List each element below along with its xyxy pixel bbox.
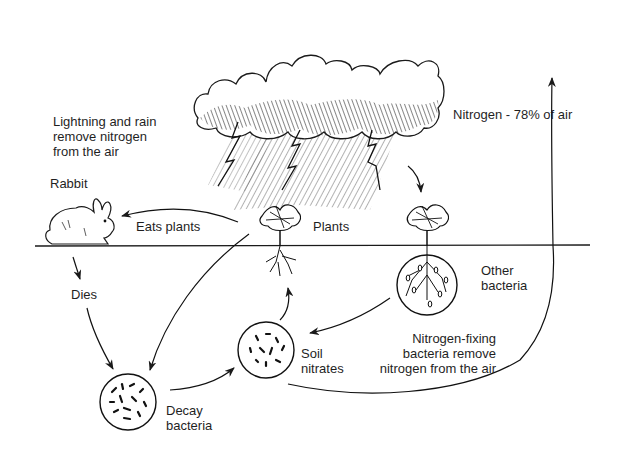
arrow-dies-to-decay — [87, 308, 113, 369]
nitrogen-cycle-diagram — [0, 0, 623, 458]
arrow-soil-to-plants — [280, 288, 289, 320]
lightning-label-line: Lightning and rain — [53, 114, 156, 129]
lightning-label-line: remove nitrogen — [53, 129, 156, 144]
arrow-plants-to-decay — [150, 234, 249, 370]
other-bacteria-label: Other bacteria — [481, 263, 527, 293]
soil-nitrates-label-line: Soil — [301, 346, 344, 361]
nitrogen-fixing-label-line: bacteria remove — [363, 346, 496, 361]
decay-bacteria-label-line: bacteria — [166, 418, 212, 433]
rabbit-icon — [46, 199, 114, 244]
nitrogen-air-label: Nitrogen - 78% of air — [453, 107, 572, 122]
soil-nitrates-label: Soil nitrates — [301, 346, 344, 376]
nitrogen-fixing-label-line: nitrogen from the air — [363, 361, 496, 376]
plant-root-nodules-icon — [397, 205, 457, 315]
nitrogen-fixing-label-line: Nitrogen-fixing — [363, 331, 496, 346]
plants-label: Plants — [313, 219, 349, 234]
arrow-rabbit-to-dies — [73, 257, 80, 279]
soil-nitrates-label-line: nitrates — [301, 361, 344, 376]
decay-bacteria-icon — [100, 374, 156, 430]
dies-label: Dies — [71, 287, 97, 302]
lightning-label-line: from the air — [53, 144, 156, 159]
decay-bacteria-label-line: Decay — [166, 403, 212, 418]
rabbit-label: Rabbit — [50, 176, 88, 191]
decay-bacteria-label: Decay bacteria — [166, 403, 212, 433]
storm-cloud-icon — [194, 55, 444, 210]
lightning-label: Lightning and rain remove nitrogen from … — [53, 114, 156, 159]
other-bacteria-label-line: Other — [481, 263, 527, 278]
arrow-decay-to-soil — [170, 368, 234, 390]
nitrogen-fixing-label: Nitrogen-fixing bacteria remove nitrogen… — [363, 331, 496, 376]
plant-icon — [260, 205, 300, 276]
soil-nitrates-icon — [238, 322, 294, 378]
ground-line — [35, 245, 590, 246]
other-bacteria-label-line: bacteria — [481, 278, 527, 293]
arrow-cloud-to-plant — [408, 166, 421, 192]
arrow-bacteria-to-soil — [310, 298, 390, 333]
eats-plants-label: Eats plants — [136, 219, 200, 234]
